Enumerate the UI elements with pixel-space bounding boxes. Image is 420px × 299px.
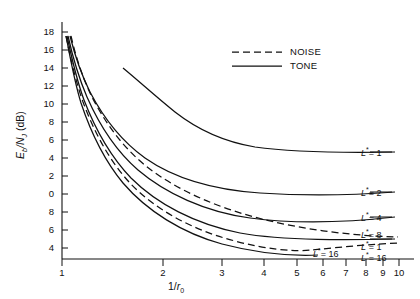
curve-tone-l2	[70, 36, 395, 195]
curve-tone-l8	[67, 36, 395, 240]
y-tick-label: 4	[32, 243, 54, 253]
curve-label-value: 16	[329, 249, 339, 259]
x-tick-label: 1	[54, 268, 70, 278]
curve-tone-l4	[68, 36, 395, 222]
x-tick-label: 7	[338, 268, 354, 278]
x-tick-label: 5	[289, 268, 305, 278]
curve-label-l8-tone: L*= 8	[361, 228, 382, 240]
x-tick-label: 4	[256, 268, 272, 278]
curve-label-value: 1	[377, 148, 382, 158]
curve-label-value: 4	[377, 213, 382, 223]
curve-label-l16-noise: L*= 16	[361, 251, 387, 263]
x-axis-title: 1/r0	[168, 280, 184, 294]
y-tick-marks	[62, 32, 68, 248]
y-tick-label: 8	[32, 117, 54, 127]
y-tick-label: 2	[32, 171, 54, 181]
y-tick-label: 14	[32, 63, 54, 73]
curve-label-value: 2	[377, 188, 382, 198]
y-tick-label: 4	[32, 153, 54, 163]
chart-figure: 18 16 14 12 10 8 6 4 2 0 8 6 4 1 2 3 4 5…	[0, 0, 420, 299]
x-tick-label: 3	[214, 268, 230, 278]
x-tick-label: 8	[358, 268, 374, 278]
curve-label-l2-tone: L*= 2	[361, 186, 382, 198]
y-tick-label: 8	[32, 207, 54, 217]
curve-label-value: 16	[377, 253, 387, 263]
curve-noise-l16	[66, 36, 398, 251]
x-tick-label: 10	[391, 268, 407, 278]
curve-label-value: 8	[377, 230, 382, 240]
y-tick-label: 10	[32, 99, 54, 109]
y-axis-title: Eb/NJ (dB)	[14, 90, 28, 180]
curve-label-l16-tone: L*= 16	[313, 247, 339, 259]
y-tick-label: 12	[32, 81, 54, 91]
x-tick-label: 2	[155, 268, 171, 278]
legend-label-tone: TONE	[290, 61, 317, 71]
x-tick-marks	[62, 259, 399, 266]
x-tick-label: 6	[315, 268, 331, 278]
x-tick-label: 9	[375, 268, 391, 278]
legend-label-noise: NOISE	[290, 47, 321, 57]
y-tick-label: 0	[32, 189, 54, 199]
y-tick-label: 16	[32, 45, 54, 55]
curve-label-l1-tone: L*= 1	[361, 146, 382, 158]
curve-label-l4-tone: L*= 4	[361, 211, 382, 223]
curve-tone-l1	[123, 68, 395, 152]
y-tick-label: 6	[32, 225, 54, 235]
y-tick-label: 18	[32, 27, 54, 37]
curve-tone-l16	[66, 36, 318, 255]
chart-plot-area	[0, 0, 420, 299]
y-tick-label: 6	[32, 135, 54, 145]
